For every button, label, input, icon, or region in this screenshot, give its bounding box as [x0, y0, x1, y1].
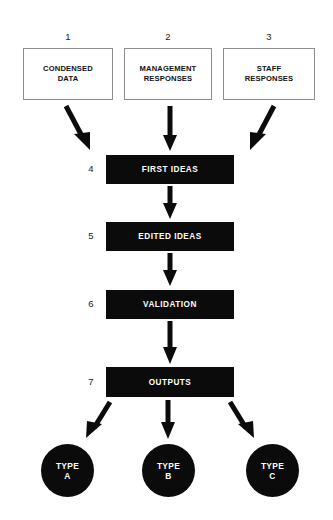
output-circle-c-line1: TYPE	[261, 461, 284, 471]
arrow-validation-to-outputs	[160, 321, 180, 365]
flowchart-diagram: 1 2 3 CONDENSED DATA MANAGEMENT RESPONSE…	[0, 0, 333, 520]
stage-bar-first-ideas[interactable]: FIRST IDEAS	[106, 155, 234, 184]
stage-number-7: 7	[82, 376, 100, 387]
arrow-outputs-to-type-b	[158, 400, 178, 440]
arrow-first-ideas-to-edited-ideas	[160, 186, 180, 220]
input-number-1: 1	[48, 31, 88, 42]
output-circle-a-line2: A	[64, 471, 70, 481]
output-circle-type-c[interactable]: TYPE C	[246, 444, 299, 497]
output-circle-type-a[interactable]: TYPE A	[41, 444, 94, 497]
stage-bar-4-label: FIRST IDEAS	[142, 165, 198, 174]
input-number-2: 2	[148, 31, 188, 42]
stage-bar-edited-ideas[interactable]: EDITED IDEAS	[106, 222, 234, 251]
output-circle-b-line1: TYPE	[157, 461, 180, 471]
stage-bar-validation[interactable]: VALIDATION	[106, 290, 234, 319]
input-box-3-label: STAFF RESPONSES	[243, 64, 296, 85]
input-box-3-line1: STAFF	[257, 64, 282, 73]
stage-number-6: 6	[82, 298, 100, 309]
stage-bar-7-label: OUTPUTS	[149, 378, 192, 387]
input-number-3: 3	[249, 31, 289, 42]
input-box-1-line2: DATA	[58, 74, 79, 83]
input-box-staff-responses[interactable]: STAFF RESPONSES	[223, 48, 315, 100]
stage-number-5: 5	[82, 230, 100, 241]
arrow-outputs-to-type-a	[78, 400, 118, 440]
input-box-1-line1: CONDENSED	[43, 64, 93, 73]
output-circle-c-line2: C	[269, 471, 275, 481]
output-circle-b-line2: B	[165, 471, 171, 481]
input-box-1-label: CONDENSED DATA	[41, 64, 95, 85]
input-box-management-responses[interactable]: MANAGEMENT RESPONSES	[124, 48, 212, 100]
arrow-input-2-to-first-ideas	[160, 104, 180, 152]
arrow-outputs-to-type-c	[222, 400, 262, 440]
input-box-2-line2: RESPONSES	[144, 74, 193, 83]
input-box-3-line2: RESPONSES	[245, 74, 294, 83]
stage-number-4: 4	[82, 163, 100, 174]
output-circle-a-line1: TYPE	[56, 461, 79, 471]
input-box-condensed-data[interactable]: CONDENSED DATA	[23, 48, 113, 100]
stage-bar-6-label: VALIDATION	[143, 300, 197, 309]
arrow-input-1-to-first-ideas	[60, 104, 100, 152]
input-box-2-label: MANAGEMENT RESPONSES	[138, 64, 199, 85]
stage-bar-5-label: EDITED IDEAS	[138, 232, 201, 241]
stage-bar-outputs[interactable]: OUTPUTS	[106, 367, 234, 397]
output-circle-type-b[interactable]: TYPE B	[142, 444, 195, 497]
input-box-2-line1: MANAGEMENT	[140, 64, 197, 73]
arrow-edited-ideas-to-validation	[160, 253, 180, 287]
arrow-input-3-to-first-ideas	[240, 104, 280, 152]
